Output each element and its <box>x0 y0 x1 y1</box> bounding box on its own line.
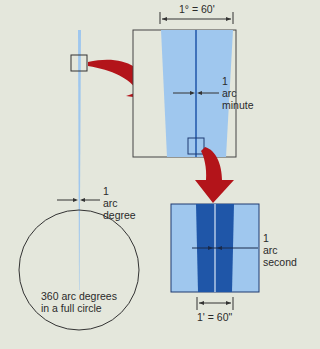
arc-second-label: 1 arc second <box>263 232 297 268</box>
top-scale-label: 1° = 60' <box>179 3 215 15</box>
arc-degree-label: 1 arc degree <box>103 185 136 221</box>
arc-minute-label: 1 arc minute <box>222 75 254 111</box>
circle-label: 360 arc degrees in a full circle <box>41 290 117 314</box>
bottom-scale-label: 1' = 60" <box>197 311 232 323</box>
degree-beam <box>78 30 81 290</box>
